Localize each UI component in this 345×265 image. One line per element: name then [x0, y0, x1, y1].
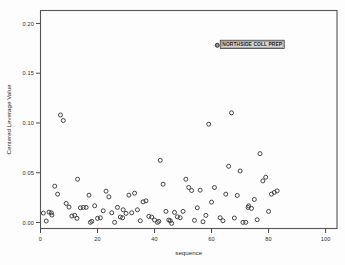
plot-canvas: 0204060801000.000.050.100.150.20 NORTHSI…	[0, 0, 345, 265]
x-axis-title: sequence	[175, 249, 202, 256]
y-axis-title: Centered Leverage Value	[5, 84, 12, 155]
y-tick-label: 0.05	[23, 170, 35, 176]
scatter-chart: 0204060801000.000.050.100.150.20 NORTHSI…	[0, 0, 345, 265]
x-tick-label: 40	[151, 236, 158, 242]
x-tick-label: 0	[39, 236, 42, 242]
annotation-label: NORTHSIDE COLL PREP	[222, 42, 283, 47]
x-tick-label: 20	[94, 236, 101, 242]
y-tick-label: 0.00	[23, 220, 35, 226]
point-annotation: NORTHSIDE COLL PREP	[220, 40, 284, 48]
y-tick-label: 0.20	[23, 21, 35, 27]
x-tick-label: 100	[321, 236, 331, 242]
x-tick-label: 80	[265, 236, 272, 242]
y-tick-label: 0.15	[23, 70, 35, 76]
x-tick-label: 60	[208, 236, 215, 242]
y-tick-label: 0.10	[23, 120, 35, 126]
data-point-highlighted	[215, 43, 219, 47]
